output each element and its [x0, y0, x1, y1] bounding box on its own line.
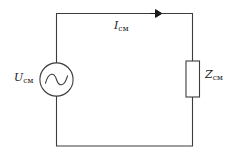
impedance-label: Zсм: [205, 69, 223, 82]
circuit-diagram: Iсм Uсм Zсм: [0, 0, 233, 160]
current-direction-arrow-icon: [150, 10, 162, 18]
voltage-label: Uсм: [14, 72, 34, 85]
impedance-subscript: см: [213, 73, 223, 82]
impedance-symbol: Z: [205, 68, 213, 81]
voltage-symbol: U: [14, 71, 23, 84]
voltage-subscript: см: [23, 76, 33, 85]
current-subscript: см: [118, 24, 128, 33]
impedance-block-icon: [186, 61, 200, 97]
current-label: Iсм: [114, 20, 129, 33]
